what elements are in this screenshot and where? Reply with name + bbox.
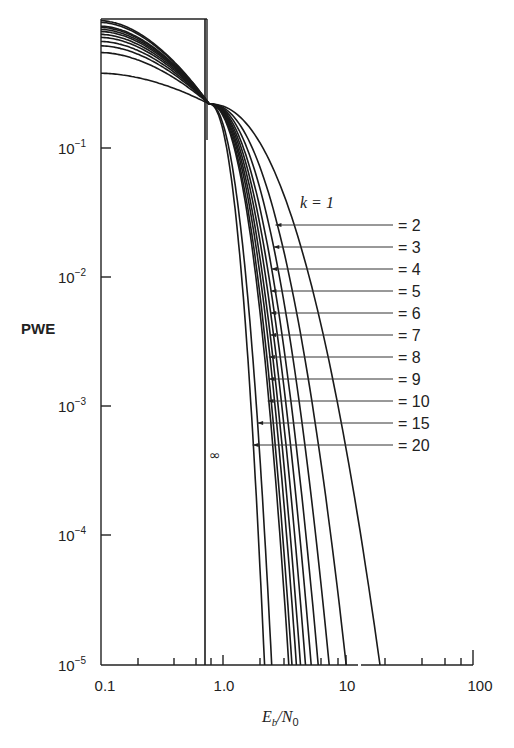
svg-text:10−3: 10−3 [58, 396, 87, 415]
svg-text:10−5: 10−5 [58, 655, 87, 674]
label-k-11: = 15 [398, 415, 430, 432]
label-k-12: = 20 [398, 437, 430, 454]
svg-text:10: 10 [339, 677, 356, 694]
pwe-vs-ebn0-chart: 10−1 10−2 10−3 10−4 10−5 0.1 1.0 10 100 … [0, 0, 514, 748]
y-tick-labels: 10−1 10−2 10−3 10−4 10−5 [58, 138, 87, 674]
svg-text:10−2: 10−2 [58, 267, 87, 286]
label-k-7: = 7 [398, 327, 421, 344]
label-k-2: = 2 [398, 217, 421, 234]
label-k-8: = 8 [398, 349, 421, 366]
label-k-5: = 5 [398, 283, 421, 300]
svg-text:10−4: 10−4 [58, 525, 87, 544]
svg-text:100: 100 [467, 677, 492, 694]
svg-text:0.1: 0.1 [95, 677, 116, 694]
y-axis-label: PWE [21, 320, 55, 337]
label-k-4: = 4 [398, 261, 421, 278]
x-tick-labels: 0.1 1.0 10 100 [95, 677, 493, 694]
infinity-label: ∞ [209, 447, 221, 463]
svg-text:10−1: 10−1 [58, 138, 87, 157]
curve-k3 [101, 46, 329, 665]
label-k-10: = 10 [398, 393, 430, 410]
curve-k6 [101, 34, 306, 665]
label-k-3: = 3 [398, 239, 421, 256]
label-k-9: = 9 [398, 371, 421, 388]
x-axis-label: Eb/N0 [261, 708, 299, 728]
label-k-1: k = 1 [300, 194, 334, 211]
label-k-6: = 6 [398, 305, 421, 322]
curve-k7 [101, 32, 301, 666]
svg-text:1.0: 1.0 [214, 677, 235, 694]
curve-k5 [101, 37, 311, 665]
curves [101, 21, 380, 665]
y-ticks [101, 148, 111, 535]
